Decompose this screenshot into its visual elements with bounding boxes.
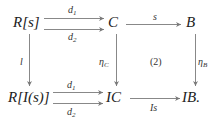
node-C: C bbox=[108, 15, 118, 30]
node-B: B bbox=[186, 15, 195, 30]
node-R-s: R[s] bbox=[13, 15, 40, 30]
node-IB: IB. bbox=[182, 90, 200, 105]
label-mid-etaC: ηC bbox=[99, 57, 109, 70]
label-bot-Is: Is bbox=[150, 103, 157, 113]
label-right-etaB: ηB bbox=[198, 57, 207, 70]
label-top-d1: d1 bbox=[68, 5, 77, 18]
label-top-s: s bbox=[153, 12, 157, 22]
annotation-2: (2) bbox=[150, 57, 162, 67]
node-R-I-s: R[I(s)] bbox=[8, 90, 50, 105]
label-bot-d1: d1 bbox=[67, 80, 76, 93]
label-bot-d2: d2 bbox=[67, 107, 76, 120]
label-left-l: l bbox=[20, 57, 23, 67]
node-IC: IC bbox=[106, 90, 121, 105]
label-top-d2: d2 bbox=[68, 32, 77, 45]
